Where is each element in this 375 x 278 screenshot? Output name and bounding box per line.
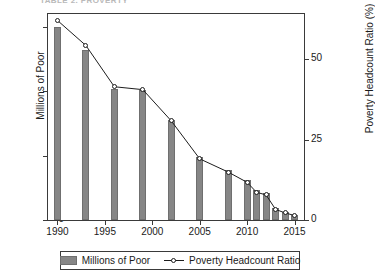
ratio-marker-2015 — [292, 213, 297, 218]
x-tick-1990: 1990 — [46, 226, 68, 237]
plot-inner — [48, 14, 304, 220]
ratio-marker-2011 — [254, 190, 259, 195]
y-axis-label-right: Poverty Headcount Ratio (%) — [364, 0, 375, 159]
ratio-marker-1990 — [55, 18, 60, 23]
legend-label-bars: Millions of Poor — [82, 255, 150, 266]
x-tickmark-2000 — [152, 221, 153, 225]
x-tickmark-2005 — [200, 221, 201, 225]
cut-off-header-strip: TABLE 2. PROVERTY — [40, 0, 340, 7]
legend-label-line: Poverty Headcount Ratio — [189, 255, 300, 266]
x-tick-2005: 2005 — [189, 226, 211, 237]
y-tick-right-25: 25 — [311, 133, 322, 144]
x-tick-2010: 2010 — [236, 226, 258, 237]
x-tick-1995: 1995 — [94, 226, 116, 237]
line-circle-icon — [164, 256, 184, 265]
ratio-marker-2008 — [226, 170, 231, 175]
chart-legend: Millions of Poor Poverty Headcount Ratio — [60, 251, 300, 270]
x-tick-2000: 2000 — [141, 226, 163, 237]
y-tick-right-50: 50 — [311, 52, 322, 63]
x-tick-2015: 2015 — [283, 226, 305, 237]
y-tick-right-0: 0 — [311, 213, 317, 224]
ratio-marker-2013 — [273, 207, 278, 212]
x-tickmark-2015 — [295, 221, 296, 225]
y-axis-label-left: Millions of Poor — [35, 26, 46, 146]
y-tickmark-right-50 — [305, 59, 309, 60]
x-tickmark-1995 — [105, 221, 106, 225]
cut-off-header-text: TABLE 2. PROVERTY — [40, 0, 128, 5]
y-tickmark-right-25 — [305, 140, 309, 141]
y-tickmark-right-0 — [305, 220, 309, 221]
legend-item-bars: Millions of Poor — [60, 255, 150, 266]
legend-item-line: Poverty Headcount Ratio — [164, 255, 300, 266]
bar-swatch-icon — [60, 256, 77, 265]
x-tickmark-2010 — [247, 221, 248, 225]
plot-area — [47, 13, 305, 221]
x-tickmark-1990 — [57, 221, 58, 225]
ratio-marker-2010 — [245, 180, 250, 185]
